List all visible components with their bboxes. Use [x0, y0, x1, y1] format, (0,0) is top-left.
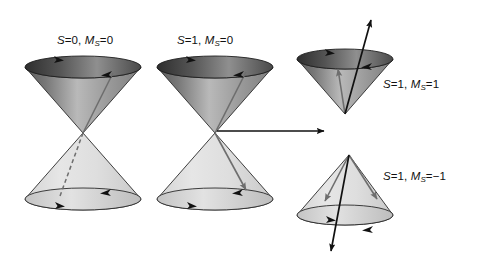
cone-rim: [297, 205, 393, 225]
singlet-double-cone: [25, 56, 141, 210]
triplet-mplus1-cone: [297, 20, 393, 114]
label-s-symbol: S: [177, 34, 185, 46]
cone-rim: [25, 56, 141, 78]
label-triplet-mminus1: S=1, MS=−1: [383, 170, 446, 184]
label-triplet-m0: S=1, MS=0: [177, 34, 233, 48]
precession-arrow-right: [362, 226, 373, 233]
label-s-symbol: S: [57, 34, 65, 46]
label-m-value: =−1: [426, 170, 446, 182]
singlet-upper-cone: [25, 56, 141, 133]
cone-rim: [157, 188, 273, 210]
label-m-symbol: M: [411, 78, 421, 90]
label-m-value: =0: [100, 34, 113, 46]
label-m-value: =0: [220, 34, 233, 46]
label-m-symbol: M: [85, 34, 95, 46]
cone-rim: [25, 188, 141, 210]
singlet-lower-cone: [25, 133, 141, 210]
label-s-symbol: S: [383, 78, 391, 90]
label-m-value: =1: [426, 78, 439, 90]
label-triplet-mplus1: S=1, MS=1: [383, 78, 439, 92]
label-s-value: =1,: [185, 34, 202, 46]
label-m-symbol: M: [205, 34, 215, 46]
triplet-mminus1-cone: [297, 155, 393, 251]
triplet-m0-lower-cone: [157, 133, 273, 210]
label-s-value: =0,: [65, 34, 82, 46]
label-s-value: =1,: [391, 170, 408, 182]
cone-rim: [157, 56, 273, 78]
label-singlet: S=0, MS=0: [57, 34, 113, 48]
label-s-value: =1,: [391, 78, 408, 90]
label-s-symbol: S: [383, 170, 391, 182]
triplet-m0-double-cone: [157, 56, 273, 210]
label-m-symbol: M: [411, 170, 421, 182]
triplet-m0-upper-cone: [157, 56, 273, 133]
cone-rim: [297, 49, 393, 69]
